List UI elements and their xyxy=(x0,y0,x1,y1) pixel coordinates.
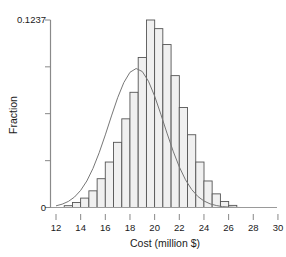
x-axis-tick-label: 22 xyxy=(174,222,185,233)
y-axis-zero-label: 0 xyxy=(41,202,46,213)
y-axis-max-label: 0.1237 xyxy=(17,14,46,25)
histogram-bar xyxy=(114,142,122,207)
x-axis-title: Cost (million $) xyxy=(130,237,200,249)
histogram-bar xyxy=(179,107,187,207)
histogram-bar xyxy=(122,119,130,208)
x-axis-tick-label: 18 xyxy=(125,222,136,233)
histogram-bar xyxy=(81,198,89,207)
histogram-figure: 12141618202224262830 0.1237 0 Fraction C… xyxy=(0,0,286,257)
x-axis-tick-label: 20 xyxy=(149,222,160,233)
histogram-bar xyxy=(188,135,196,208)
histogram-bar xyxy=(138,57,146,207)
histogram-bar xyxy=(163,45,171,208)
y-axis-title: Fraction xyxy=(7,96,19,134)
histogram-bar xyxy=(130,92,138,207)
x-axis-tick-label: 26 xyxy=(223,222,234,233)
chart-canvas: 12141618202224262830 0.1237 0 Fraction C… xyxy=(0,0,286,257)
x-axis-tick-label: 12 xyxy=(51,222,62,233)
histogram-bar xyxy=(105,162,113,207)
histogram-bar xyxy=(72,203,80,208)
histogram-bar xyxy=(97,179,105,208)
x-axis-tick-label: 30 xyxy=(273,222,284,233)
histogram-bar xyxy=(146,20,154,208)
x-axis-tick-label: 24 xyxy=(199,222,210,233)
x-axis-tick-label: 28 xyxy=(248,222,259,233)
histogram-bar xyxy=(89,191,97,208)
x-axis-tick-label: 14 xyxy=(75,222,86,233)
histogram-bar xyxy=(171,76,179,208)
x-axis-tick-label: 16 xyxy=(100,222,111,233)
histogram-bar xyxy=(204,181,212,208)
